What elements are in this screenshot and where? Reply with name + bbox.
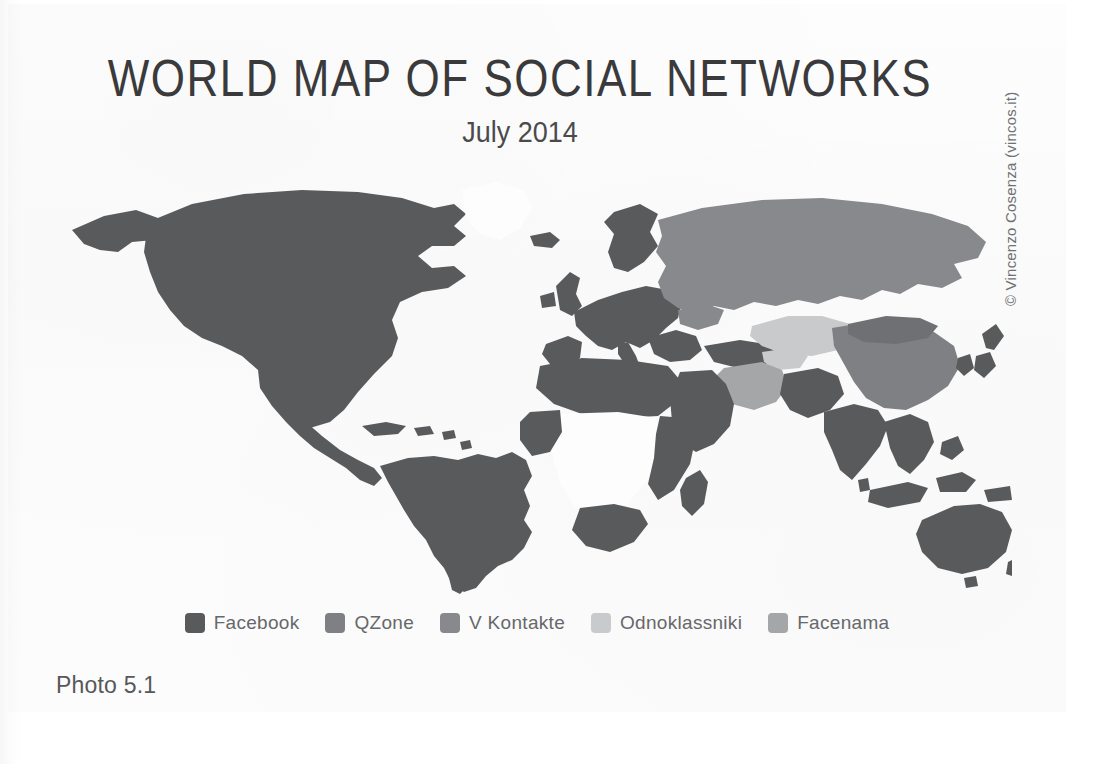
- region-korea: [956, 354, 974, 376]
- region-india: [824, 404, 888, 480]
- region-madagascar: [680, 470, 708, 516]
- figure-subtitle: July 2014: [70, 116, 970, 150]
- region-southeast-asia: [884, 414, 934, 474]
- world-map-container: .fb { fill: #595a5c; } .qz { fill: #7e80…: [62, 160, 1012, 600]
- legend-item-v-kontakte[interactable]: V Kontakte: [440, 612, 565, 634]
- page-title: WORLD MAP OF SOCIAL NETWORKS: [70, 52, 970, 104]
- region-australia: [916, 504, 1012, 574]
- region-iceland: [530, 232, 560, 248]
- legend-item-facebook[interactable]: Facebook: [185, 612, 300, 634]
- figure-world-map-of-social-networks: WORLD MAP OF SOCIAL NETWORKS July 2014 ©…: [0, 0, 1070, 716]
- region-japan: [974, 324, 1004, 378]
- legend-label: Facenama: [797, 612, 889, 634]
- color-swatch-icon: [440, 613, 460, 633]
- region-africa-interior: [552, 412, 662, 516]
- legend-item-qzone[interactable]: QZone: [325, 612, 414, 634]
- legend-item-facenama[interactable]: Facenama: [768, 612, 889, 634]
- color-swatch-icon: [325, 613, 345, 633]
- legend-item-odnoklassniki[interactable]: Odnoklassniki: [591, 612, 742, 634]
- region-indonesia: [868, 436, 1012, 508]
- region-sri-lanka: [858, 478, 870, 492]
- region-caribbean: [362, 422, 472, 450]
- title-block: WORLD MAP OF SOCIAL NETWORKS July 2014: [70, 52, 970, 147]
- world-map-svg: .fb { fill: #595a5c; } .qz { fill: #7e80…: [62, 160, 1012, 600]
- region-scandinavia: [604, 204, 658, 272]
- region-new-zealand: [1006, 560, 1012, 576]
- region-british-isles: [540, 272, 582, 316]
- legend-label: V Kontakte: [469, 612, 565, 634]
- color-swatch-icon: [591, 613, 611, 633]
- region-russia: [656, 198, 986, 314]
- color-swatch-icon: [185, 613, 205, 633]
- legend-label: QZone: [354, 612, 414, 634]
- region-tasmania: [964, 576, 978, 588]
- region-north-america: [144, 190, 466, 428]
- screenshot-page: WORLD MAP OF SOCIAL NETWORKS July 2014 ©…: [0, 0, 1118, 764]
- legend-label: Odnoklassniki: [620, 612, 742, 634]
- figure-caption: Photo 5.1: [56, 672, 156, 699]
- region-north-africa: [536, 358, 680, 418]
- map-legend: Facebook QZone V Kontakte Odnoklassniki …: [62, 612, 1012, 634]
- color-swatch-icon: [768, 613, 788, 633]
- region-greenland: [462, 182, 532, 240]
- legend-label: Facebook: [214, 612, 300, 634]
- region-southern-africa: [572, 504, 648, 552]
